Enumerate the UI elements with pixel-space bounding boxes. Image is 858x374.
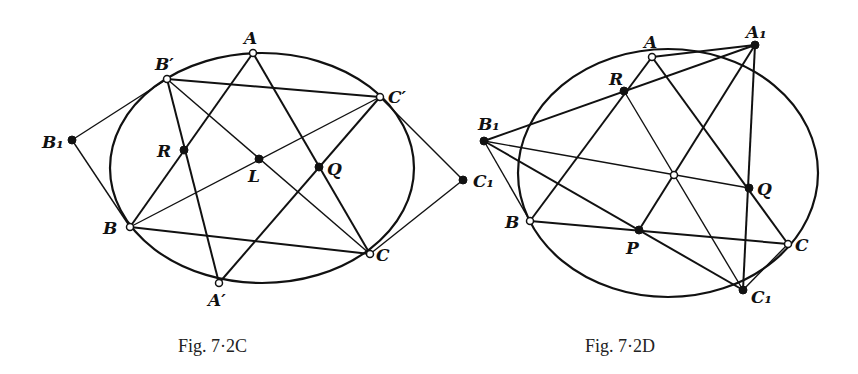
point-B — [527, 218, 534, 225]
point-label-B-prime: B′ — [154, 54, 174, 74]
segment-B1-A1 — [484, 45, 755, 141]
point-center — [671, 172, 678, 179]
point-label-R: R — [608, 69, 623, 89]
point-label-C: C — [376, 245, 390, 265]
figure-7-2C: AB′C′B₁RLQBCA′C₁ — [41, 28, 494, 310]
segment-B-prime-A-prime — [167, 79, 219, 283]
segment-A-B — [130, 53, 253, 227]
point-label-L: L — [247, 166, 260, 186]
point-L — [255, 155, 263, 163]
point-R — [180, 146, 188, 154]
segment-C1-C-prime — [380, 97, 463, 180]
segment-C1-C — [370, 180, 463, 254]
point-C1 — [739, 286, 747, 294]
caption-fig-7-2D: Fig. 7·2D — [585, 336, 655, 357]
point-C-prime — [377, 94, 384, 101]
segment-A-B — [530, 57, 652, 221]
point-label-Q: Q — [757, 179, 772, 199]
point-label-C-prime: C′ — [388, 87, 407, 107]
point-label-C1: C₁ — [473, 171, 494, 191]
segment-A-C — [652, 57, 788, 244]
point-B — [127, 224, 134, 231]
segment-R-C1 — [624, 91, 743, 290]
point-label-A1: A₁ — [744, 22, 767, 42]
point-label-A: A — [242, 28, 257, 48]
segment-C-prime-A-prime — [219, 97, 380, 283]
segment-B1-B-prime — [72, 79, 167, 140]
point-label-B: B — [102, 218, 117, 238]
point-Q — [315, 163, 323, 171]
point-B1 — [480, 137, 488, 145]
point-label-B1: B₁ — [41, 132, 64, 152]
point-A-prime — [216, 280, 223, 287]
point-label-R: R — [156, 141, 171, 161]
figure-7-2D: AA₁RB₁QBPCC₁ — [477, 22, 818, 307]
point-label-B1: B₁ — [477, 114, 500, 134]
point-label-Q: Q — [327, 159, 342, 179]
point-Q — [745, 184, 753, 192]
point-label-P: P — [625, 238, 640, 258]
segment-B-C — [130, 227, 370, 254]
point-label-A: A — [642, 32, 657, 52]
segment-B1-B — [72, 140, 130, 227]
point-label-C1: C₁ — [751, 287, 772, 307]
segment-C1-C — [743, 244, 788, 290]
point-P — [635, 226, 643, 234]
point-C — [367, 251, 374, 258]
point-C — [785, 241, 792, 248]
geometry-figures: AB′C′B₁RLQBCA′C₁ AA₁RB₁QBPCC₁ — [0, 0, 858, 374]
caption-fig-7-2C: Fig. 7·2C — [178, 336, 247, 357]
point-label-C: C — [795, 235, 809, 255]
segment-A1-C1 — [743, 45, 755, 290]
point-B-prime — [164, 76, 171, 83]
point-A — [649, 54, 656, 61]
point-label-B: B — [504, 212, 519, 232]
point-label-A-prime: A′ — [206, 290, 226, 310]
point-A1 — [751, 41, 759, 49]
point-B1 — [68, 136, 76, 144]
point-A — [250, 50, 257, 57]
point-C1 — [459, 176, 467, 184]
segment-A1-P — [639, 45, 755, 230]
